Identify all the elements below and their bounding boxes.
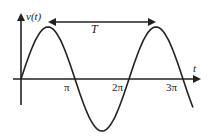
tick-label-pi: π [64, 81, 70, 93]
sine-wave-diagram: T v(t) t π 2π 3π [0, 0, 208, 139]
tick-label-3pi: 3π [166, 81, 178, 93]
tick-label-2pi: 2π [112, 81, 124, 93]
x-axis-label: t [193, 62, 197, 74]
y-axis-label: v(t) [26, 10, 42, 23]
period-label: T [91, 22, 99, 36]
